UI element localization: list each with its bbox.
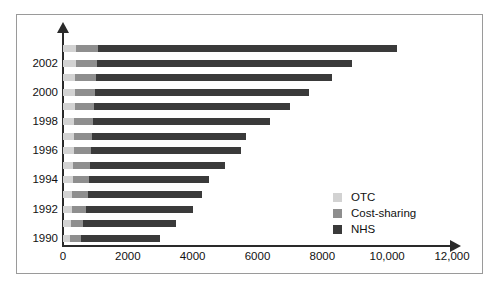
chart-legend: OTCCost-sharingNHS xyxy=(333,189,416,237)
x-axis-tick-12000: 12,000 xyxy=(434,250,469,262)
bar-segment-cost-sharing xyxy=(71,220,83,227)
bar-segment-cost-sharing xyxy=(76,45,98,52)
x-axis-tick-8000: 8000 xyxy=(310,250,336,262)
bar-segment-nhs xyxy=(93,118,270,125)
bar-segment-otc xyxy=(63,162,73,169)
bar-1990 xyxy=(63,235,160,242)
bar-segment-otc xyxy=(63,118,74,125)
legend-swatch-icon xyxy=(333,225,342,234)
bar-1995 xyxy=(63,162,225,169)
bar-segment-otc xyxy=(63,74,75,81)
legend-label: OTC xyxy=(351,189,375,205)
bar-segment-otc xyxy=(63,133,74,140)
x-axis-tick-10000: 10,000 xyxy=(370,250,405,262)
bar-1996 xyxy=(63,147,241,154)
chart-plot-area: 1990199219941996199820002002 02000400060… xyxy=(0,0,501,291)
bar-1999 xyxy=(63,103,290,110)
bar-segment-nhs xyxy=(89,176,209,183)
bar-segment-cost-sharing xyxy=(70,235,81,242)
legend-swatch-icon xyxy=(333,193,342,202)
bar-segment-otc xyxy=(63,103,75,110)
bar-segment-cost-sharing xyxy=(73,162,90,169)
y-axis-tick-2000: 2000 xyxy=(6,87,58,97)
bar-1997 xyxy=(63,133,246,140)
legend-swatch-icon xyxy=(333,209,342,218)
bar-1994 xyxy=(63,176,209,183)
legend-label: Cost-sharing xyxy=(351,205,416,221)
bar-segment-nhs xyxy=(83,220,176,227)
bar-2000 xyxy=(63,89,309,96)
bar-segment-otc xyxy=(63,206,72,213)
bar-segment-nhs xyxy=(91,147,241,154)
x-axis-line xyxy=(62,245,452,247)
bar-segment-otc xyxy=(63,45,76,52)
bar-segment-nhs xyxy=(81,235,160,242)
bar-segment-otc xyxy=(63,220,71,227)
bar-segment-nhs xyxy=(90,162,225,169)
x-axis-tick-0: 0 xyxy=(60,250,66,262)
legend-item-nhs: NHS xyxy=(333,221,416,237)
bar-segment-cost-sharing xyxy=(75,74,96,81)
bar-segment-cost-sharing xyxy=(74,133,92,140)
bar-segment-nhs xyxy=(94,103,290,110)
bar-segment-otc xyxy=(63,147,74,154)
x-axis-tick-6000: 6000 xyxy=(245,250,271,262)
bar-segment-cost-sharing xyxy=(75,89,95,96)
bar-segment-nhs xyxy=(86,206,193,213)
bar-segment-nhs xyxy=(97,60,351,67)
y-axis-tick-1998: 1998 xyxy=(6,116,58,126)
bar-segment-cost-sharing xyxy=(73,176,89,183)
bar-1993 xyxy=(63,191,202,198)
bar-segment-otc xyxy=(63,235,70,242)
bar-2001 xyxy=(63,74,332,81)
x-axis-tick-2000: 2000 xyxy=(115,250,141,262)
x-axis-tick-4000: 4000 xyxy=(180,250,206,262)
bar-1991 xyxy=(63,220,176,227)
bar-segment-cost-sharing xyxy=(75,103,94,110)
bar-segment-cost-sharing xyxy=(72,206,86,213)
y-axis-tick-1996: 1996 xyxy=(6,145,58,155)
legend-label: NHS xyxy=(351,221,375,237)
bar-segment-nhs xyxy=(96,74,332,81)
bar-segment-otc xyxy=(63,191,72,198)
bar-segment-cost-sharing xyxy=(72,191,88,198)
bar-segment-otc xyxy=(63,60,76,67)
y-axis-labels: 1990199219941996199820002002 xyxy=(2,0,58,291)
bar-segment-otc xyxy=(63,176,73,183)
y-axis-arrow-icon xyxy=(57,22,69,33)
bar-segment-otc xyxy=(63,89,75,96)
bar-2003 xyxy=(63,45,397,52)
bar-segment-cost-sharing xyxy=(74,118,93,125)
legend-item-cost-sharing: Cost-sharing xyxy=(333,205,416,221)
bar-segment-nhs xyxy=(98,45,397,52)
bar-segment-cost-sharing xyxy=(76,60,97,67)
y-axis-tick-1990: 1990 xyxy=(6,233,58,243)
legend-item-otc: OTC xyxy=(333,189,416,205)
y-axis-tick-1994: 1994 xyxy=(6,174,58,184)
y-axis-tick-1992: 1992 xyxy=(6,204,58,214)
bar-segment-cost-sharing xyxy=(74,147,92,154)
bar-segment-nhs xyxy=(92,133,246,140)
bar-1998 xyxy=(63,118,270,125)
bar-1992 xyxy=(63,206,193,213)
bar-2002 xyxy=(63,60,352,67)
bar-segment-nhs xyxy=(88,191,202,198)
bar-segment-nhs xyxy=(95,89,309,96)
y-axis-tick-2002: 2002 xyxy=(6,58,58,68)
